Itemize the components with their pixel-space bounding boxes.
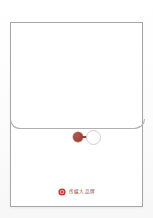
- envelope-product-photo: 传媒大品牌: [0, 0, 153, 218]
- envelope-flap-panel: [10, 22, 143, 129]
- brand-name-text: 传媒大品牌: [69, 190, 96, 195]
- string-button-clasp: [73, 129, 101, 145]
- envelope-body: 传媒大品牌: [10, 22, 143, 207]
- clasp-ring-icon: [86, 130, 101, 145]
- flap-corner-left: [10, 119, 20, 129]
- red-seal-flower-icon: [58, 188, 66, 196]
- brand-mark: 传媒大品牌: [11, 188, 142, 196]
